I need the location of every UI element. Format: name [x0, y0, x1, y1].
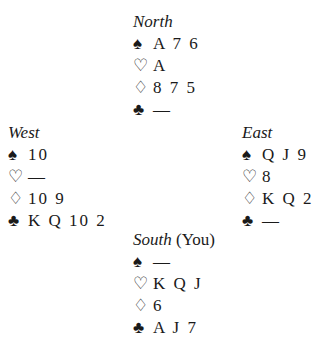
spade-icon: ♠ — [242, 144, 262, 166]
spade-icon: ♠ — [133, 33, 153, 55]
diamond-icon: ♢ — [133, 77, 153, 99]
club-icon: ♣ — [8, 210, 28, 232]
spades-cards: A 7 6 — [153, 34, 200, 53]
hearts-row: ♡— — [8, 166, 107, 188]
hand-label: West — [8, 122, 107, 144]
hearts-row: ♡K Q J — [133, 273, 215, 295]
hearts-cards: 8 — [262, 167, 273, 186]
spades-row: ♠Q J 9 — [242, 144, 314, 166]
player-note: (You) — [172, 230, 215, 249]
clubs-cards: — — [262, 211, 281, 230]
clubs-row: ♣A J 7 — [133, 317, 215, 339]
spades-row: ♠A 7 6 — [133, 33, 200, 55]
player-name: South — [133, 230, 172, 249]
north-hand: North ♠A 7 6 ♡A ♢8 7 5 ♣— — [133, 11, 200, 121]
clubs-row: ♣— — [133, 99, 200, 121]
spade-icon: ♠ — [8, 144, 28, 166]
spades-row: ♠10 — [8, 144, 107, 166]
spades-cards: Q J 9 — [262, 145, 308, 164]
hearts-cards: A — [153, 56, 167, 75]
diamond-icon: ♢ — [242, 188, 262, 210]
heart-icon: ♡ — [133, 273, 153, 295]
diamonds-cards: 8 7 5 — [153, 78, 197, 97]
club-icon: ♣ — [133, 99, 153, 121]
clubs-cards: — — [153, 100, 172, 119]
player-name: North — [133, 12, 173, 31]
diamond-icon: ♢ — [8, 188, 28, 210]
player-name: East — [242, 123, 272, 142]
hearts-row: ♡8 — [242, 166, 314, 188]
heart-icon: ♡ — [242, 166, 262, 188]
heart-icon: ♡ — [133, 55, 153, 77]
clubs-cards: K Q 10 2 — [28, 211, 107, 230]
hearts-cards: K Q J — [153, 274, 203, 293]
clubs-row: ♣— — [242, 210, 314, 232]
clubs-cards: A J 7 — [153, 318, 198, 337]
hand-label: East — [242, 122, 314, 144]
player-name: West — [8, 123, 40, 142]
east-hand: East ♠Q J 9 ♡8 ♢K Q 2 ♣— — [242, 122, 314, 232]
hearts-row: ♡A — [133, 55, 200, 77]
diamonds-row: ♢6 — [133, 295, 215, 317]
diamonds-row: ♢10 9 — [8, 188, 107, 210]
hearts-cards: — — [28, 167, 47, 186]
hand-label: North — [133, 11, 200, 33]
diamond-icon: ♢ — [133, 295, 153, 317]
diamonds-row: ♢K Q 2 — [242, 188, 314, 210]
club-icon: ♣ — [133, 317, 153, 339]
diamonds-cards: K Q 2 — [262, 189, 314, 208]
clubs-row: ♣K Q 10 2 — [8, 210, 107, 232]
spades-cards: — — [153, 252, 172, 271]
south-hand: South (You) ♠— ♡K Q J ♢6 ♣A J 7 — [133, 229, 215, 339]
west-hand: West ♠10 ♡— ♢10 9 ♣K Q 10 2 — [8, 122, 107, 232]
spade-icon: ♠ — [133, 251, 153, 273]
hand-label: South (You) — [133, 229, 215, 251]
diamonds-cards: 10 9 — [28, 189, 66, 208]
diamonds-cards: 6 — [153, 296, 164, 315]
club-icon: ♣ — [242, 210, 262, 232]
spades-row: ♠— — [133, 251, 215, 273]
spades-cards: 10 — [28, 145, 49, 164]
heart-icon: ♡ — [8, 166, 28, 188]
diamonds-row: ♢8 7 5 — [133, 77, 200, 99]
